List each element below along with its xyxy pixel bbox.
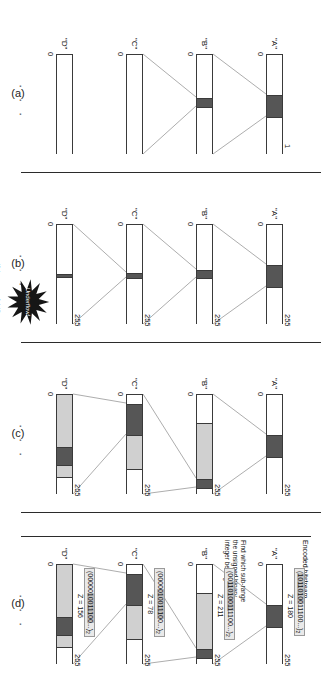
bar-name: "D" (60, 208, 69, 219)
bar-segment-light (127, 605, 142, 639)
bar-segment-light (127, 435, 142, 469)
axis-tick-high: 255 (213, 654, 222, 667)
axis-tick-low: 0 (46, 222, 55, 226)
bar-name: "A" (270, 378, 279, 389)
underflow-condition: if (range < 1-bit) (0, 264, 1, 314)
bar-segment-light (197, 593, 212, 649)
z-value: Z = 211 (217, 594, 224, 617)
bar-segment-mid (197, 488, 212, 495)
segment-divider (197, 98, 212, 99)
bar-segment-dark (197, 479, 212, 488)
bar-segment-dark (197, 98, 212, 107)
segment-divider (57, 447, 72, 448)
axis-tick-low: 0 (256, 562, 265, 566)
value-bar (56, 54, 73, 154)
axis-tick-high: 255 (143, 654, 152, 667)
z-value: Z = 156 (77, 594, 84, 618)
bar-segment-mid (267, 55, 282, 95)
bar-segment-mid (127, 55, 142, 155)
value-bar (126, 54, 143, 154)
bar-segment-dark (57, 447, 72, 465)
bar-segment-mid (127, 565, 142, 574)
axis-tick-low: 0 (256, 52, 265, 56)
segment-divider (57, 465, 72, 466)
row-ellipsis: · · · (14, 84, 29, 119)
bar-segment-light (197, 423, 212, 479)
bar-segment-dark (267, 435, 282, 457)
encoded-code-box: (1011010011100...)2 (294, 568, 305, 636)
panel-separator-0 (21, 172, 321, 173)
segment-divider (57, 647, 72, 648)
axis-tick-low: 0 (116, 222, 125, 226)
axis-tick-high: 255 (143, 484, 152, 497)
axis-tick-low: 0 (116, 52, 125, 56)
segment-divider (197, 658, 212, 659)
bar-segment-dark (267, 605, 282, 627)
axis-tick-high: 255 (143, 314, 152, 327)
bar-segment-mid (127, 639, 142, 665)
segment-divider (57, 617, 72, 618)
bar-segment-mid (57, 55, 72, 155)
encoded-code-box: (0000010011100...)2 (154, 568, 165, 637)
bar-segment-mid (127, 225, 142, 273)
bar-segment-light (57, 565, 72, 617)
bar-segment-mid (197, 107, 212, 155)
bar-segment-mid (197, 565, 212, 593)
segment-divider (267, 457, 282, 458)
segment-divider (197, 107, 212, 108)
bar-segment-mid (267, 565, 282, 605)
bar-segment-mid (267, 457, 282, 495)
segment-divider (197, 423, 212, 424)
segment-divider (267, 605, 282, 606)
axis-tick-high: 255 (213, 484, 222, 497)
segment-divider (127, 469, 142, 470)
encoded-code-box: (0000010011100...)2 (84, 568, 95, 637)
value-bar (196, 224, 213, 324)
panel-a: (a)· · ·"A"01"B"0"C"0"D"0 (0, 8, 329, 178)
value-bar (56, 394, 73, 494)
panel-c: (c)· · ·"A"0255"B"0255"C"0255"D"0255 (0, 348, 329, 518)
segment-divider (127, 574, 142, 575)
value-bar (266, 54, 283, 154)
bar-segment-mid (197, 658, 212, 665)
axis-tick-low: 0 (46, 392, 55, 396)
bar-segment-dark (57, 617, 72, 635)
axis-tick-low: 0 (116, 562, 125, 566)
bar-segment-mid (267, 287, 282, 325)
segment-divider (57, 274, 72, 275)
bar-segment-light (57, 395, 72, 447)
segment-divider (267, 95, 282, 96)
axis-tick-high: 255 (73, 654, 82, 667)
bar-segment-mid (267, 395, 282, 435)
bar-segment-dark (127, 404, 142, 435)
bar-name: "C" (130, 378, 139, 389)
value-bar (196, 564, 213, 664)
axis-tick-low: 0 (256, 392, 265, 396)
axis-tick-low: 0 (46, 52, 55, 56)
bitstream-axis (21, 536, 311, 537)
segment-divider (127, 278, 142, 279)
bar-segment-dark (127, 574, 142, 605)
value-bar (126, 224, 143, 324)
bar-name: "B" (200, 38, 209, 49)
value-bar (266, 224, 283, 324)
axis-tick-low: 0 (256, 222, 265, 226)
encoded-code-box: (00110100111100...)2 (224, 568, 235, 640)
underflow-text: Underflow! (25, 288, 31, 317)
row-ellipsis: · · · (14, 424, 29, 459)
value-bar (266, 564, 283, 664)
value-bar (126, 394, 143, 494)
row-ellipsis: · · · (14, 594, 29, 629)
bar-segment-mid (267, 627, 282, 665)
bar-segment-light (57, 635, 72, 647)
bar-segment-dark (197, 649, 212, 658)
bar-name: "D" (60, 38, 69, 49)
axis-tick-low: 0 (186, 52, 195, 56)
bar-name: "A" (270, 38, 279, 49)
z-value: Z = 180 (287, 594, 294, 618)
bar-name: "C" (130, 548, 139, 559)
segment-divider (197, 488, 212, 489)
segment-divider (127, 273, 142, 274)
segment-divider (57, 635, 72, 636)
segment-divider (197, 278, 212, 279)
